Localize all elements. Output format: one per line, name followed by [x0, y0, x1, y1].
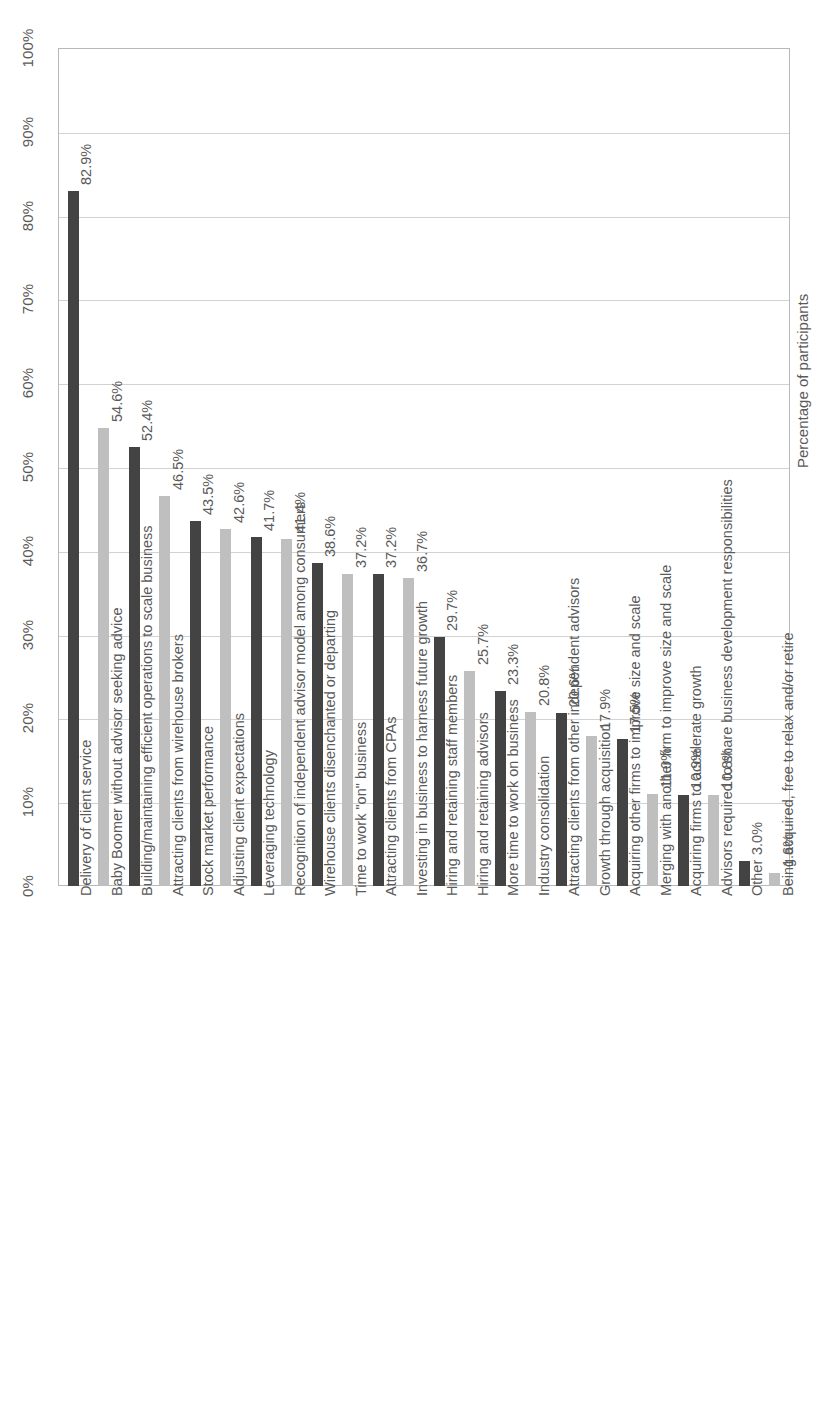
- gridline-70: [59, 300, 789, 301]
- category-label: Investing in business to harness future …: [415, 601, 430, 896]
- bar-value-label: 46.5%: [171, 449, 186, 490]
- category-label: Attracting clients from CPAs: [384, 717, 399, 896]
- bar-value-label: 54.6%: [110, 381, 125, 422]
- bar-value-label: 25.7%: [476, 624, 491, 665]
- value-tick-30%: 30%: [20, 607, 36, 663]
- category-label: Wirehouse clients disenchanted or depart…: [323, 610, 338, 896]
- bar: [464, 671, 475, 886]
- category-label: Other: [750, 860, 765, 896]
- bar-value-label: 20.8%: [537, 665, 552, 706]
- category-label: Hiring and retaining staff members: [445, 675, 460, 896]
- value-tick-100%: 100%: [20, 20, 36, 76]
- bar-value-label: 36.7%: [415, 531, 430, 572]
- bar-value-label: 37.2%: [384, 527, 399, 568]
- category-label: Growth through acquisition: [598, 724, 613, 897]
- bar: [342, 574, 353, 886]
- value-tick-0%: 0%: [20, 858, 36, 914]
- gridline-80: [59, 217, 789, 218]
- category-label: Stock market performance: [201, 726, 216, 896]
- value-tick-70%: 70%: [20, 271, 36, 327]
- bar: [769, 873, 780, 886]
- value-tick-60%: 60%: [20, 355, 36, 411]
- value-tick-80%: 80%: [20, 188, 36, 244]
- bar-value-label: 37.2%: [354, 527, 369, 568]
- bar: [281, 539, 292, 886]
- category-label: Hiring and retaining advisors: [476, 712, 491, 896]
- category-label: Acquiring firms to accelerate growth: [689, 666, 704, 897]
- bar-value-label: 41.7%: [262, 489, 277, 530]
- value-tick-10%: 10%: [20, 774, 36, 830]
- gridline-50: [59, 468, 789, 469]
- category-label: Delivery of client service: [79, 740, 94, 896]
- bar-value-label: 38.6%: [323, 515, 338, 556]
- bar: [647, 794, 658, 886]
- bar: [586, 736, 597, 886]
- value-tick-50%: 50%: [20, 439, 36, 495]
- bar-value-label: 3.0%: [750, 822, 765, 855]
- value-tick-40%: 40%: [20, 523, 36, 579]
- category-label: Industry consolidation: [537, 756, 552, 896]
- category-label: Advisors required to share business deve…: [720, 479, 735, 896]
- category-label: Attracting clients from other independen…: [567, 578, 582, 896]
- value-tick-90%: 90%: [20, 104, 36, 160]
- category-label: Building/maintaining efficient operation…: [140, 525, 155, 896]
- bar: [220, 529, 231, 886]
- category-label: Acquiring other firms to improve size an…: [628, 595, 643, 896]
- category-label: Merging with another firm to improve siz…: [659, 565, 674, 896]
- bar-value-label: 43.5%: [201, 474, 216, 515]
- category-label: Adjusting client expectations: [232, 713, 247, 896]
- category-label: Being acquired, free to relax and/or ret…: [781, 632, 796, 896]
- bar-value-label: 82.9%: [79, 144, 94, 185]
- bar: [403, 578, 414, 886]
- bar-value-label: 29.7%: [445, 590, 460, 631]
- value-tick-20%: 20%: [20, 690, 36, 746]
- category-label: Time to work "on" business: [354, 722, 369, 896]
- category-label: Leveraging technology: [262, 750, 277, 896]
- value-axis-title: Percentage of participants: [795, 294, 811, 468]
- gridline-90: [59, 133, 789, 134]
- category-label: More time to work on business: [506, 699, 521, 896]
- gridline-60: [59, 384, 789, 385]
- bar: [98, 428, 109, 886]
- bar-value-label: 23.3%: [506, 644, 521, 685]
- category-label: Attracting clients from wirehouse broker…: [171, 634, 186, 896]
- bar: [708, 795, 719, 886]
- category-label: Recognition of independent advisor model…: [293, 502, 308, 896]
- category-label: Baby Boomer without advisor seeking advi…: [110, 607, 125, 896]
- bar-value-label: 52.4%: [140, 400, 155, 441]
- bar-value-label: 42.6%: [232, 482, 247, 523]
- bar: [159, 496, 170, 886]
- bar: [525, 712, 536, 886]
